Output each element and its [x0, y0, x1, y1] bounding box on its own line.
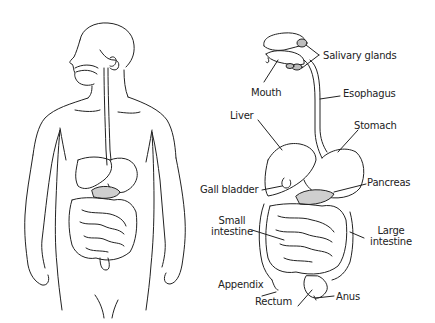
label-large-intestine: Large intestine	[366, 225, 416, 247]
label-large-intestine-line2: intestine	[366, 236, 416, 247]
label-large-intestine-line1: Large	[366, 225, 416, 236]
label-small-intestine: Small intestine	[207, 215, 257, 237]
label-small-intestine-line2: intestine	[207, 226, 257, 237]
label-small-intestine-line1: Small	[207, 215, 257, 226]
label-stomach: Stomach	[354, 120, 397, 131]
digestive-system-illustration	[0, 0, 435, 323]
label-liver: Liver	[230, 110, 254, 121]
isolated-organs	[252, 33, 366, 306]
label-pancreas: Pancreas	[367, 177, 410, 188]
label-gall-bladder: Gall bladder	[200, 184, 258, 195]
label-appendix: Appendix	[218, 279, 263, 290]
label-anus: Anus	[336, 291, 360, 302]
label-rectum: Rectum	[255, 296, 292, 307]
label-salivary-glands: Salivary glands	[323, 50, 396, 61]
label-esophagus: Esophagus	[343, 88, 396, 99]
label-mouth: Mouth	[251, 87, 281, 98]
human-body-figure	[25, 23, 186, 318]
